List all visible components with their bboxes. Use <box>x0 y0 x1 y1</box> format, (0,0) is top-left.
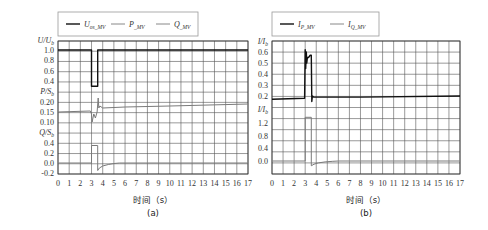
svg-text:12: 12 <box>401 179 409 188</box>
svg-text:2: 2 <box>292 179 296 188</box>
svg-text:14: 14 <box>210 179 218 188</box>
svg-text:0: 0 <box>56 179 60 188</box>
svg-text:15: 15 <box>434 179 442 188</box>
svg-text:13: 13 <box>412 179 420 188</box>
svg-text:4: 4 <box>314 179 318 188</box>
panel-1: I/Ib0.60.50.40.30.2 <box>257 37 460 102</box>
x-axis-label: 时间（s） <box>133 195 173 205</box>
svg-text:6: 6 <box>336 179 340 188</box>
panel-3: Q/Sb0.40.20.0-0.2 <box>39 128 248 178</box>
svg-text:13: 13 <box>199 179 207 188</box>
panel-2: I/Ib1.20.80.40.0 <box>257 105 460 166</box>
series-p-mv <box>58 98 248 122</box>
y-tick-label: 0.4 <box>258 144 268 153</box>
y-axis-label: I/Ib <box>257 37 269 47</box>
svg-text:3: 3 <box>303 179 307 188</box>
y-tick-label: 0.2 <box>258 92 268 101</box>
y-tick-label: 0.6 <box>258 48 268 57</box>
y-tick-label: 0.0 <box>258 157 268 166</box>
y-tick-label: 0.5 <box>258 59 268 68</box>
x-axis-label: 时间（s） <box>346 195 386 205</box>
series-i-q-mv <box>272 117 460 166</box>
x-axis-ticks: 01234567891011121314151617 <box>56 179 252 188</box>
svg-text:5: 5 <box>112 179 116 188</box>
y-tick-label: 0.6 <box>44 67 54 76</box>
svg-text:5: 5 <box>325 179 329 188</box>
y-tick-label: 0.15 <box>40 108 54 117</box>
y-tick-label: 1.0 <box>44 46 54 55</box>
y-tick-label: 1.2 <box>258 119 268 128</box>
y-axis-label: U/Ub <box>37 36 54 46</box>
svg-text:1: 1 <box>281 179 285 188</box>
y-tick-label: 0.4 <box>258 70 268 79</box>
svg-text:2: 2 <box>78 179 82 188</box>
svg-text:10: 10 <box>166 179 174 188</box>
svg-text:11: 11 <box>390 179 398 188</box>
grid <box>272 41 460 174</box>
figure: Uos_MVP_MVQ_MVU/Ub1.00.80.60.4P/Sb0.200.… <box>0 0 488 230</box>
svg-text:9: 9 <box>370 179 374 188</box>
legend: Uos_MVP_MVQ_MV <box>58 12 198 36</box>
svg-text:12: 12 <box>188 179 196 188</box>
y-tick-label: 0.8 <box>258 132 268 141</box>
y-axis-label: P/Sb <box>39 87 54 97</box>
x-axis-ticks: 01234567891011121314151617 <box>270 179 464 188</box>
grid <box>58 41 248 174</box>
legend: IP_MVIQ_MV <box>272 12 379 36</box>
svg-text:11: 11 <box>177 179 185 188</box>
y-tick-label: 0.8 <box>44 56 54 65</box>
svg-text:17: 17 <box>456 179 464 188</box>
panel-2: P/Sb0.200.150.10 <box>39 87 248 127</box>
svg-text:1: 1 <box>67 179 71 188</box>
chart-caption: (a) <box>147 208 159 218</box>
y-tick-label: 0.3 <box>258 81 268 90</box>
y-tick-label: 0.4 <box>44 77 54 86</box>
series-i-p-mv <box>272 50 460 102</box>
svg-text:4: 4 <box>101 179 105 188</box>
svg-text:14: 14 <box>423 179 431 188</box>
y-tick-label: 0.0 <box>44 159 54 168</box>
y-axis-label: Q/Sb <box>39 128 54 138</box>
svg-text:0: 0 <box>270 179 274 188</box>
series-q-mv <box>58 146 248 171</box>
svg-text:10: 10 <box>379 179 387 188</box>
svg-text:9: 9 <box>157 179 161 188</box>
svg-text:8: 8 <box>358 179 362 188</box>
svg-text:7: 7 <box>347 179 351 188</box>
y-tick-label: 0.2 <box>44 149 54 158</box>
svg-text:15: 15 <box>222 179 230 188</box>
y-tick-label: 0.20 <box>40 98 54 107</box>
svg-text:16: 16 <box>445 179 453 188</box>
svg-text:3: 3 <box>90 179 94 188</box>
y-tick-label: 0.4 <box>44 139 54 148</box>
y-axis-label: I/Ib <box>257 105 269 115</box>
chart-caption: (b) <box>360 208 372 218</box>
svg-text:7: 7 <box>134 179 138 188</box>
svg-text:8: 8 <box>145 179 149 188</box>
chart-b: IP_MVIQ_MVI/Ib0.60.50.40.30.2I/Ib1.20.80… <box>257 12 464 218</box>
chart-a: Uos_MVP_MVQ_MVU/Ub1.00.80.60.4P/Sb0.200.… <box>37 12 252 218</box>
y-tick-label: -0.2 <box>41 169 54 178</box>
svg-text:17: 17 <box>244 179 252 188</box>
series-u-os-mv <box>58 50 248 86</box>
svg-text:16: 16 <box>233 179 241 188</box>
svg-text:6: 6 <box>123 179 127 188</box>
y-tick-label: 0.10 <box>40 118 54 127</box>
